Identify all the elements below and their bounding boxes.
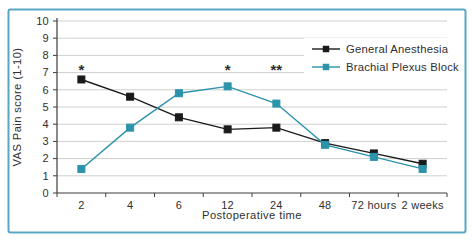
y-tick-label: 10 bbox=[36, 15, 49, 27]
x-axis-title: Postoperative time bbox=[202, 209, 302, 221]
data-point-marker bbox=[78, 165, 85, 172]
asterisk-annotation: ** bbox=[271, 61, 283, 78]
data-point-marker bbox=[322, 141, 329, 148]
y-tick-label: 7 bbox=[43, 66, 49, 78]
y-tick-label: 8 bbox=[43, 49, 49, 61]
x-tick-label: 2 weeks bbox=[401, 199, 444, 211]
x-tick-label: 6 bbox=[176, 199, 182, 211]
data-point-marker bbox=[273, 124, 280, 131]
y-tick-label: 3 bbox=[43, 135, 49, 147]
data-point-marker bbox=[127, 93, 134, 100]
legend-label: General Anesthesia bbox=[346, 43, 449, 55]
data-point-marker bbox=[224, 83, 231, 90]
y-axis-title: VAS Pain score (1-10) bbox=[11, 48, 23, 167]
data-point-marker bbox=[273, 100, 280, 107]
data-point-marker bbox=[419, 165, 426, 172]
figure-page: 012345678910 24612244872 hours2 weeks **… bbox=[0, 0, 472, 245]
y-tick-label: 2 bbox=[43, 152, 49, 164]
legend-marker-square bbox=[323, 46, 330, 53]
data-point-marker bbox=[370, 153, 377, 160]
x-tick-label: 48 bbox=[319, 199, 332, 211]
legend-label: Brachial Plexus Block bbox=[346, 61, 459, 73]
data-point-marker bbox=[175, 114, 182, 121]
asterisk-annotation: * bbox=[78, 61, 84, 78]
x-tick-label: 72 hours bbox=[351, 199, 396, 211]
x-tick-label: 4 bbox=[127, 199, 133, 211]
legend-marker-square bbox=[323, 64, 330, 71]
legend: General AnesthesiaBrachial Plexus Block bbox=[304, 38, 460, 76]
vas-pain-chart: 012345678910 24612244872 hours2 weeks **… bbox=[0, 0, 472, 245]
data-point-marker bbox=[175, 90, 182, 97]
y-tick-label: 9 bbox=[43, 32, 49, 44]
y-tick-label: 1 bbox=[43, 170, 49, 182]
significance-asterisks: **** bbox=[78, 61, 282, 78]
y-tick-label: 5 bbox=[43, 101, 49, 113]
y-tick-labels: 012345678910 bbox=[36, 15, 49, 199]
y-tick-label: 0 bbox=[43, 187, 49, 199]
y-tick-label: 4 bbox=[43, 118, 49, 130]
y-tick-label: 6 bbox=[43, 84, 49, 96]
data-point-marker bbox=[224, 126, 231, 133]
x-tick-label: 2 bbox=[78, 199, 84, 211]
asterisk-annotation: * bbox=[225, 61, 231, 78]
data-point-marker bbox=[127, 124, 134, 131]
